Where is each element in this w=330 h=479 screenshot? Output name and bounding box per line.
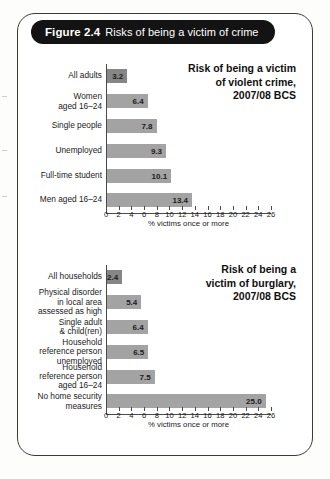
bar-category-label: No home securitymeasures [22, 392, 102, 411]
bar-value-label: 6.5 [133, 347, 144, 356]
bar-category-label: Physical disorderin local areaassessed a… [22, 288, 102, 316]
x-axis-tick-label: 14 [191, 411, 199, 420]
bar-category-label: Unemployed [22, 146, 102, 155]
x-axis-tick [258, 407, 259, 411]
x-axis-tick-label: 12 [178, 411, 186, 420]
x-axis-tick [169, 206, 170, 210]
scan-edge-mark [2, 96, 7, 97]
bar-row: Womenaged 16–246.4 [18, 89, 314, 114]
x-axis-tick-label: 26 [267, 411, 275, 420]
x-axis-tick [131, 407, 132, 411]
x-axis-tick [220, 407, 221, 411]
x-axis-tick-label: 14 [191, 210, 199, 219]
x-axis-tick [131, 206, 132, 210]
x-axis-tick-label: 10 [165, 210, 173, 219]
bar: 9.3 [107, 144, 166, 158]
x-axis-tick [233, 407, 234, 411]
x-axis-tick-label: 20 [229, 210, 237, 219]
x-axis-tick-label: 16 [203, 411, 211, 420]
bar: 5.4 [107, 295, 141, 309]
x-axis-tick-label: 4 [129, 210, 133, 219]
x-axis-tick-label: 6 [142, 210, 146, 219]
x-axis-tick-label: 22 [241, 411, 249, 420]
bar: 7.5 [107, 370, 155, 384]
scan-edge-mark [2, 150, 7, 151]
x-axis-tick [208, 206, 209, 210]
x-axis-tick-label: 8 [155, 210, 159, 219]
x-axis-tick [233, 206, 234, 210]
x-axis-tick [169, 407, 170, 411]
x-axis-tick-label: 0 [104, 210, 108, 219]
bar-value-label: 5.4 [126, 298, 137, 307]
x-axis-tick [157, 206, 158, 210]
bar-category-label: Womenaged 16–24 [22, 92, 102, 111]
bar-value-label: 7.5 [139, 372, 150, 381]
bar-row: Householdreference personunemployed6.5 [18, 339, 314, 364]
plot-area-burglary: All households2.4Physical disorderin loc… [18, 265, 314, 425]
bar-row: Householdreference personaged 16–247.5 [18, 364, 314, 389]
x-axis-tick-label: 4 [129, 411, 133, 420]
chart-violent-crime: Risk of being a victimof violent crime,2… [18, 56, 314, 252]
x-axis-tick [195, 407, 196, 411]
x-axis-tick-label: 26 [267, 210, 275, 219]
bar-value-label: 9.3 [151, 146, 162, 155]
bar-value-label: 13.4 [172, 196, 188, 205]
scan-edge-mark [2, 196, 7, 197]
bar-value-label: 7.8 [141, 121, 152, 130]
bar: 6.4 [107, 94, 148, 108]
x-axis-tick-label: 24 [254, 411, 262, 420]
bar: 3.2 [107, 69, 127, 83]
figure-header-pill: Figure 2.4 Risks of being a victim of cr… [31, 20, 275, 44]
bar-row: All households2.4 [18, 265, 314, 290]
bar-value-label: 3.2 [112, 72, 123, 81]
bar: 2.4 [107, 270, 122, 284]
bar: 6.4 [107, 320, 148, 334]
x-axis-tick [246, 206, 247, 210]
page-background: Figure 2.4 Risks of being a victim of cr… [0, 0, 330, 479]
bar-rows: All adults3.2Womenaged 16–246.4Single pe… [18, 64, 314, 213]
bar-row: All adults3.2 [18, 64, 314, 89]
x-axis-tick [271, 206, 272, 210]
x-axis-tick-label: 18 [216, 411, 224, 420]
x-axis-tick [271, 407, 272, 411]
bar-category-label: Householdreference personaged 16–24 [22, 362, 102, 390]
x-axis-tick [106, 407, 107, 411]
x-axis-tick [182, 407, 183, 411]
figure-number: Figure 2.4 [45, 26, 100, 38]
bar: 10.1 [107, 169, 171, 183]
bar-category-label: All adults [22, 72, 102, 81]
bar-row: Physical disorderin local areaassessed a… [18, 290, 314, 315]
x-axis-tick-label: 0 [104, 411, 108, 420]
bar-value-label: 2.4 [107, 273, 118, 282]
bar-category-label: Full-time student [22, 171, 102, 180]
x-axis-tick-label: 2 [117, 411, 121, 420]
x-axis-title-violent: % victims once or more [106, 219, 271, 228]
x-axis-title-burglary: % victims once or more [106, 420, 271, 429]
x-axis-tick-label: 18 [216, 210, 224, 219]
x-axis-tick-label: 12 [178, 210, 186, 219]
bar-row: Unemployed9.3 [18, 138, 314, 163]
x-axis-tick [246, 407, 247, 411]
x-axis-tick [182, 206, 183, 210]
chart-burglary: Risk of being avictim of burglary,2007/0… [18, 257, 314, 453]
bar-rows: All households2.4Physical disorderin loc… [18, 265, 314, 414]
x-axis-tick [220, 206, 221, 210]
x-axis-tick-label: 16 [203, 210, 211, 219]
x-axis-tick-label: 6 [142, 411, 146, 420]
bar-row: Single adult& child(ren)6.4 [18, 315, 314, 340]
x-axis-tick-label: 24 [254, 210, 262, 219]
x-axis-tick-label: 10 [165, 411, 173, 420]
x-axis-tick [119, 407, 120, 411]
x-axis-tick-label: 2 [117, 210, 121, 219]
bar-value-label: 6.4 [132, 97, 143, 106]
bar-value-label: 10.1 [152, 171, 168, 180]
bar-category-label: Single people [22, 121, 102, 130]
x-axis-tick-label: 22 [241, 210, 249, 219]
bar-row: Full-time student10.1 [18, 163, 314, 188]
x-axis-tick [195, 206, 196, 210]
x-axis-tick [144, 206, 145, 210]
bar-category-label: Single adult& child(ren) [22, 318, 102, 337]
x-axis-tick [106, 206, 107, 210]
plot-area-violent: All adults3.2Womenaged 16–246.4Single pe… [18, 64, 314, 224]
x-axis-tick [157, 407, 158, 411]
